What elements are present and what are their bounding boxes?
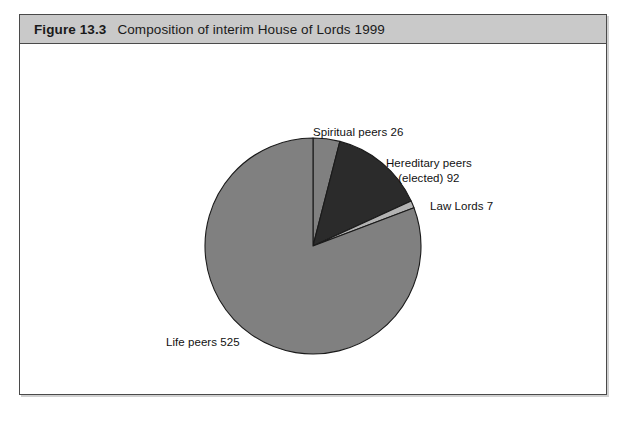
pie-label-spiritual-peers: Spiritual peers 26 — [313, 125, 403, 140]
figure-number: Figure 13.3 — [34, 22, 106, 37]
pie-chart-svg: Spiritual peers 26Hereditary peers (elec… — [20, 44, 608, 395]
figure-title: Composition of interim House of Lords 19… — [117, 22, 385, 37]
pie-chart: Spiritual peers 26Hereditary peers (elec… — [20, 44, 606, 395]
pie-label-life-peers: Life peers 525 — [166, 335, 240, 350]
pie-label-hereditary-line1: Hereditary peers — [386, 156, 472, 171]
pie-label-law-lords: Law Lords 7 — [430, 199, 493, 214]
figure-header: Figure 13.3 Composition of interim House… — [20, 15, 606, 44]
pie-label-hereditary-peers: Hereditary peers (elected) 92 — [386, 156, 472, 186]
pie-label-hereditary-line2: (elected) 92 — [386, 171, 472, 186]
figure-frame: Figure 13.3 Composition of interim House… — [19, 14, 607, 395]
